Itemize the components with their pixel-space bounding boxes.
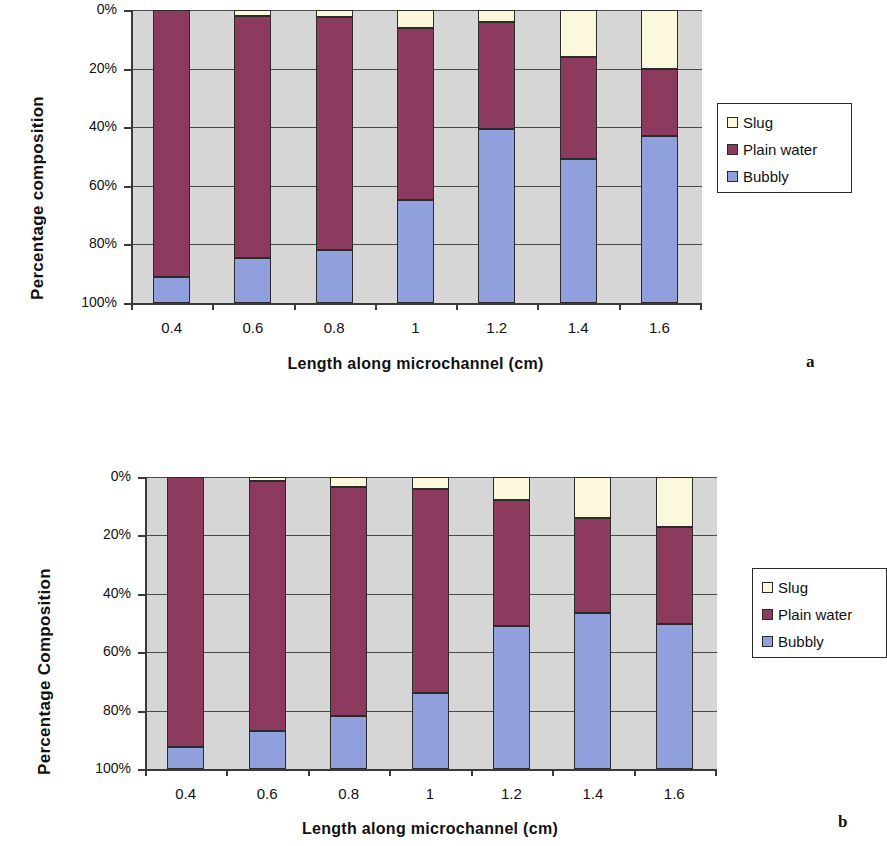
bar-segment-plain-water	[167, 477, 204, 747]
bar-segment-plain-water	[330, 487, 367, 716]
bar-segment-bubbly	[167, 747, 204, 769]
x-tick-label: 0.4	[145, 785, 226, 802]
bar-segment-slug	[249, 477, 286, 481]
x-tick-mark	[471, 769, 473, 776]
bar-segment-bubbly	[656, 624, 693, 769]
x-tick-label: 0.6	[226, 785, 307, 802]
bar-segment-slug	[493, 477, 530, 500]
y-tick-label: 60%	[65, 643, 131, 659]
bar-stack	[330, 477, 367, 769]
bar-segment-slug	[412, 477, 449, 489]
y-tick-label: 40%	[65, 585, 131, 601]
bar-segment-slug	[656, 477, 693, 527]
bar-stack	[574, 477, 611, 769]
y-tick-mark	[138, 594, 145, 596]
bar-segment-slug	[330, 477, 367, 487]
x-tick-mark	[552, 769, 554, 776]
x-tick-mark	[226, 769, 228, 776]
y-tick-mark	[138, 769, 145, 771]
chart-b-legend: SlugPlain waterBubbly	[752, 568, 887, 658]
x-tick-label: 1.2	[471, 785, 552, 802]
chart-b-y-axis-label: Percentage Composition	[35, 568, 55, 775]
chart-b-panel-letter: b	[838, 812, 847, 832]
bar-stack	[656, 477, 693, 769]
bar-segment-plain-water	[412, 489, 449, 693]
y-tick-mark	[138, 535, 145, 537]
y-tick-mark	[138, 711, 145, 713]
bar-segment-bubbly	[574, 613, 611, 769]
legend-label: Plain water	[778, 606, 852, 623]
bar-segment-slug	[574, 477, 611, 518]
bar-segment-bubbly	[330, 716, 367, 769]
legend-label: Slug	[778, 579, 808, 596]
legend-swatch-icon	[762, 636, 773, 647]
y-tick-mark	[138, 652, 145, 654]
legend-swatch-icon	[762, 582, 773, 593]
x-tick-label: 1	[389, 785, 470, 802]
x-tick-label: 1.6	[634, 785, 715, 802]
bar-segment-plain-water	[574, 518, 611, 613]
y-tick-label: 80%	[65, 702, 131, 718]
legend-item-bubbly[interactable]: Bubbly	[762, 633, 824, 650]
x-tick-label: 0.8	[308, 785, 389, 802]
chart-b-x-axis-label: Length along microchannel (cm)	[145, 820, 715, 838]
legend-item-slug[interactable]: Slug	[762, 579, 808, 596]
legend-swatch-icon	[762, 609, 773, 620]
bar-stack	[493, 477, 530, 769]
bar-segment-bubbly	[493, 626, 530, 769]
bar-stack	[167, 477, 204, 769]
x-tick-mark	[308, 769, 310, 776]
legend-label: Bubbly	[778, 633, 824, 650]
bar-segment-plain-water	[493, 500, 530, 626]
y-tick-label: 100%	[65, 760, 131, 776]
legend-item-plain-water[interactable]: Plain water	[762, 606, 852, 623]
x-tick-label: 1.4	[552, 785, 633, 802]
bar-stack	[249, 477, 286, 769]
bar-stack	[412, 477, 449, 769]
bar-segment-bubbly	[412, 693, 449, 769]
bar-segment-plain-water	[249, 481, 286, 731]
x-tick-mark	[634, 769, 636, 776]
x-tick-mark-origin	[145, 769, 147, 776]
y-tick-mark	[138, 477, 145, 479]
x-tick-mark	[389, 769, 391, 776]
y-tick-label: 20%	[65, 526, 131, 542]
y-tick-label: 0%	[65, 468, 131, 484]
x-tick-mark	[715, 769, 717, 776]
bar-segment-plain-water	[656, 527, 693, 625]
bar-segment-bubbly	[249, 731, 286, 769]
